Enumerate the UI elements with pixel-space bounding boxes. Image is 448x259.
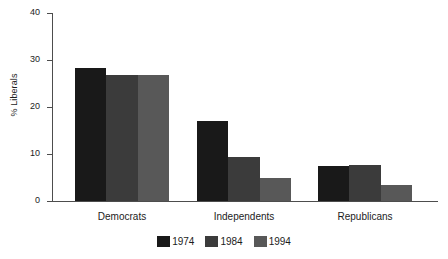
bar-republicans-1994 [381,185,412,201]
bar-independents-1994 [260,178,291,201]
y-axis-tick-label: 0 [12,196,40,205]
y-axis-tick-label: 20 [12,102,40,111]
y-axis-tick-label-wrap: 10 [10,149,40,159]
y-axis-tick-label-wrap: 20 [10,102,40,112]
bar-republicans-1974 [318,166,349,201]
legend-swatch-icon-1994 [254,236,267,247]
y-axis-tick-label-wrap: 0 [10,196,40,206]
y-axis-tick-label-wrap: 30 [10,55,40,65]
y-axis-tick-label-wrap: 40 [10,8,40,18]
chart-legend: 197419841994 [0,236,448,247]
legend-swatch-icon-1974 [157,236,170,247]
x-axis-line [52,201,438,202]
bar-independents-1974 [197,121,228,201]
x-axis-label-republicans: Republicans [305,211,425,222]
bar-independents-1984 [228,157,259,201]
bar-republicans-1984 [349,165,380,201]
y-axis-tick-label: 30 [12,55,40,64]
legend-label-1984: 1984 [220,236,242,247]
bar-democrats-1994 [138,75,169,201]
legend-swatch-icon-1984 [205,236,218,247]
legend-label-1994: 1994 [269,236,291,247]
chart-figure: % Liberals 010203040 DemocratsIndependen… [0,0,448,259]
legend-item-1994: 1994 [254,236,291,247]
bar-democrats-1974 [75,68,106,201]
legend-item-1984: 1984 [205,236,242,247]
plot-area [52,13,437,201]
bar-democrats-1984 [106,75,137,201]
legend-item-1974: 1974 [157,236,194,247]
y-axis-tick-label: 10 [12,149,40,158]
y-axis-tick [47,201,52,202]
y-axis-tick-label: 40 [12,8,40,17]
legend-label-1974: 1974 [172,236,194,247]
x-axis-label-democrats: Democrats [62,211,182,222]
x-axis-label-independents: Independents [184,211,304,222]
y-axis-title: % Liberals [9,35,19,155]
